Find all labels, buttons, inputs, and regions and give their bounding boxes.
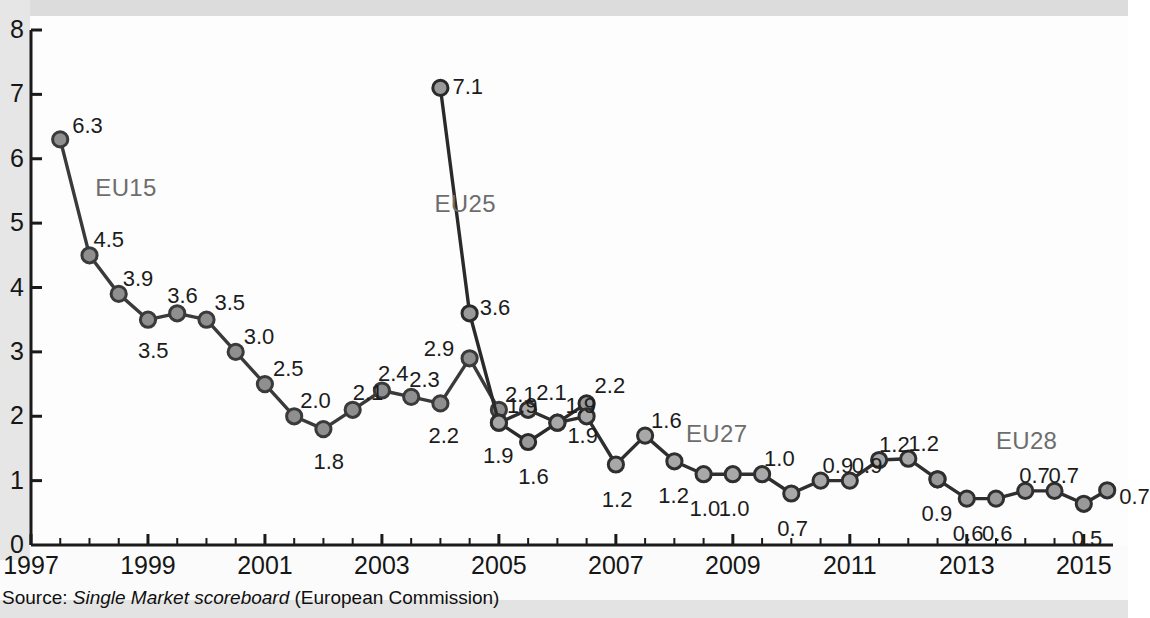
data-point-label: 4.5 xyxy=(93,229,124,251)
data-point xyxy=(988,491,1003,506)
x-tick-label: 1999 xyxy=(103,553,193,578)
data-point-label: 3.5 xyxy=(138,340,169,362)
y-tick-label: 7 xyxy=(0,81,24,106)
y-tick-label: 4 xyxy=(0,275,24,300)
data-point-label: 1.2 xyxy=(908,433,939,455)
x-tick-label: 2009 xyxy=(688,553,778,578)
data-point-label: 1.2 xyxy=(658,485,689,507)
data-point-label: 1.0 xyxy=(764,448,795,470)
source-suffix: (European Commission) xyxy=(289,587,499,608)
data-point xyxy=(696,467,711,482)
data-point-label: 2.4 xyxy=(378,363,409,385)
data-point-label: 3.0 xyxy=(244,326,275,348)
data-point-label: 1.9 xyxy=(507,395,538,417)
data-point xyxy=(199,312,214,327)
data-point xyxy=(1100,483,1115,498)
data-point xyxy=(667,454,682,469)
data-point-label: 1.0 xyxy=(719,498,750,520)
y-tick-label: 2 xyxy=(0,403,24,428)
x-tick-label: 2001 xyxy=(220,553,310,578)
data-point-label: 7.1 xyxy=(452,76,483,98)
data-point-label: 1.9 xyxy=(567,425,598,447)
data-point-label: 1.0 xyxy=(690,498,721,520)
series-label-eu25: EU25 xyxy=(435,192,496,216)
data-point xyxy=(228,344,243,359)
data-point xyxy=(462,351,477,366)
data-point-label: 1.2 xyxy=(602,489,633,511)
data-point-label: 0.7 xyxy=(777,518,808,540)
data-point-label: 2.5 xyxy=(273,358,304,380)
y-tick-label: 8 xyxy=(0,17,24,42)
data-point-label: 2.1 xyxy=(536,382,567,404)
data-point xyxy=(53,132,68,147)
data-point-label: 1.9 xyxy=(483,445,514,467)
data-point-label: 3.6 xyxy=(480,297,511,319)
data-point-label: 3.5 xyxy=(214,292,245,314)
data-point-label: 2.0 xyxy=(300,390,331,412)
x-tick-label: 2003 xyxy=(337,553,427,578)
data-point-label: 2.2 xyxy=(428,425,459,447)
data-point-label: 0.6 xyxy=(953,523,984,545)
data-point xyxy=(140,312,155,327)
source-note: Source: Single Market scoreboard (Europe… xyxy=(2,588,499,607)
y-tick-label: 5 xyxy=(0,210,24,235)
data-point-label: 0.7 xyxy=(1119,486,1150,508)
data-point xyxy=(521,434,536,449)
data-point-label: 0.9 xyxy=(922,503,953,525)
data-point-label: 1.2 xyxy=(879,434,910,456)
data-point-label: 0.7 xyxy=(1049,465,1080,487)
data-point xyxy=(257,377,272,392)
data-point-label: 0.7 xyxy=(1019,465,1050,487)
data-point xyxy=(433,80,448,95)
data-point-label: 1.8 xyxy=(313,451,344,473)
data-point-label: 1.6 xyxy=(518,466,549,488)
x-tick-label: 2005 xyxy=(454,553,544,578)
source-publication: Single Market scoreboard xyxy=(73,587,290,608)
data-point xyxy=(784,486,799,501)
data-point xyxy=(491,415,506,430)
data-point xyxy=(608,457,623,472)
data-point xyxy=(316,422,331,437)
y-tick-label: 6 xyxy=(0,146,24,171)
x-tick-label: 2007 xyxy=(571,553,661,578)
source-prefix: Source: xyxy=(2,587,73,608)
data-point-label: 1.6 xyxy=(651,410,682,432)
data-point-label: 0.6 xyxy=(982,523,1013,545)
data-point-label: 2.3 xyxy=(409,369,440,391)
data-point xyxy=(959,491,974,506)
data-point-label: 2.2 xyxy=(595,375,626,397)
data-point-label: 3.6 xyxy=(167,285,198,307)
data-point-label: 0.9 xyxy=(852,455,883,477)
data-point xyxy=(1076,496,1091,511)
x-tick-label: 2013 xyxy=(922,553,1012,578)
data-point-label: 1.9 xyxy=(565,395,596,417)
x-tick-label: 2015 xyxy=(1039,553,1129,578)
data-point xyxy=(462,306,477,321)
data-point-label: 2.9 xyxy=(424,338,455,360)
data-point xyxy=(930,472,945,487)
data-point xyxy=(433,396,448,411)
data-point xyxy=(725,467,740,482)
x-tick-label: 2011 xyxy=(805,553,895,578)
data-point-label: 6.3 xyxy=(72,115,103,137)
data-point-label: 3.9 xyxy=(123,268,154,290)
series-label-eu28: EU28 xyxy=(996,429,1057,453)
y-tick-label: 1 xyxy=(0,468,24,493)
data-point xyxy=(550,415,565,430)
data-point-label: 0.9 xyxy=(823,455,854,477)
series-label-eu15: EU15 xyxy=(95,176,156,200)
data-point-label: 0.5 xyxy=(1072,528,1103,550)
y-tick-label: 3 xyxy=(0,339,24,364)
x-tick-label: 1997 xyxy=(0,553,76,578)
series-label-eu27: EU27 xyxy=(686,422,747,446)
